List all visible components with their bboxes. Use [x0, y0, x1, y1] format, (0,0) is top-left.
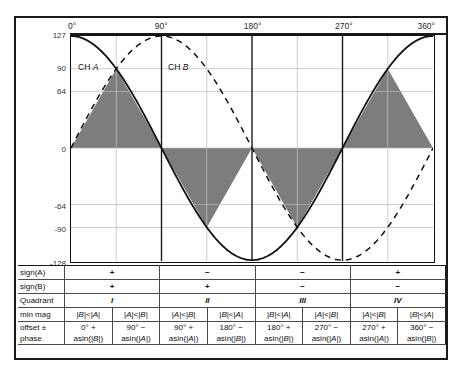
quadrant-table: sign(A)+−−+sign(B)++−−QuadrantIIIIIIIVmi… — [18, 265, 446, 345]
x-tick-label: 360° — [417, 21, 435, 31]
waveform-svg — [71, 36, 433, 261]
cell-sign_b: − — [255, 280, 350, 294]
cell-offset_phase_l1: 270° +asin(|A|) — [350, 322, 398, 345]
cell-min_mag: |B|<|A| — [65, 308, 113, 322]
cell-sign_b: + — [65, 280, 160, 294]
cell-sign_a: − — [160, 266, 255, 280]
cell-sign_b: + — [160, 280, 255, 294]
cell-offset_phase_l1: 180° +asin(|B|) — [255, 322, 303, 345]
table-row: sign(B)++−− — [18, 280, 446, 294]
cell-quadrant: III — [255, 294, 350, 308]
x-axis-degree-header: 0°90°180°270°360° — [70, 20, 446, 35]
x-tick-label: 270° — [335, 21, 353, 31]
row-label-sign_b: sign(B) — [18, 280, 65, 294]
shaded-region — [207, 148, 252, 227]
y-tick-label: 0 — [62, 144, 66, 153]
cell-min_mag: |B|<|A| — [207, 308, 255, 322]
row-label-offset_phase_l1: offset ±phase — [18, 322, 65, 345]
diagram-root: ADC Level 0°90°180°270°360° 12790640-64-… — [0, 0, 461, 377]
cell-offset_phase_l1: 90° +asin(|A|) — [160, 322, 208, 345]
y-tick-label: -90 — [54, 225, 66, 234]
cell-offset_phase_l1: 360° −asin(|B|) — [398, 322, 446, 345]
table-row: min mag|B|<|A||A|<|B||A|<|B||B|<|A||B|<|… — [18, 308, 446, 322]
cell-min_mag: |A|<|B| — [160, 308, 208, 322]
x-tick-label: 90° — [155, 21, 168, 31]
table-row: sign(A)+−−+ — [18, 266, 446, 280]
y-tick-label: -64 — [54, 201, 66, 210]
cell-quadrant: I — [65, 294, 160, 308]
cell-min_mag: |A|<|B| — [112, 308, 160, 322]
cell-sign_a: − — [255, 266, 350, 280]
cell-sign_b: − — [350, 280, 445, 294]
cell-quadrant: II — [160, 294, 255, 308]
cell-quadrant: IV — [350, 294, 445, 308]
cell-offset_phase_l1: 0° +asin(|B|) — [65, 322, 113, 345]
x-tick-label: 0° — [68, 21, 76, 31]
cell-min_mag: |A|<|B| — [303, 308, 351, 322]
series-label: CH B — [168, 62, 188, 72]
row-label-min_mag: min mag — [18, 308, 65, 322]
cell-sign_a: + — [65, 266, 160, 280]
cell-sign_a: + — [350, 266, 445, 280]
plot-box — [70, 35, 435, 263]
cell-offset_phase_l1: 90° −asin(|A|) — [112, 322, 160, 345]
x-tick-label: 180° — [244, 21, 262, 31]
y-tick-label: 90 — [57, 64, 66, 73]
table-row: QuadrantIIIIIIIV — [18, 294, 446, 308]
diagram-frame: ADC Level 0°90°180°270°360° 12790640-64-… — [14, 16, 448, 360]
y-tick-label: 64 — [57, 87, 66, 96]
cell-offset_phase_l1: 180° −asin(|B|) — [207, 322, 255, 345]
y-tick-label: 127 — [53, 31, 66, 40]
cell-offset_phase_l1: 270° −asin(|A|) — [303, 322, 351, 345]
cell-min_mag: |B|<|A| — [398, 308, 446, 322]
cell-min_mag: |B|<|A| — [255, 308, 303, 322]
cell-min_mag: |A|<|B| — [350, 308, 398, 322]
row-label-quadrant: Quadrant — [18, 294, 65, 308]
shaded-region — [388, 69, 433, 148]
series-label: CH A — [78, 62, 98, 72]
plot-area: 12790640-64-90-128 CH ACH B — [70, 35, 435, 263]
table-row: offset ±phase0° +asin(|B|)90° −asin(|A|)… — [18, 322, 446, 345]
row-label-sign_a: sign(A) — [18, 266, 65, 280]
